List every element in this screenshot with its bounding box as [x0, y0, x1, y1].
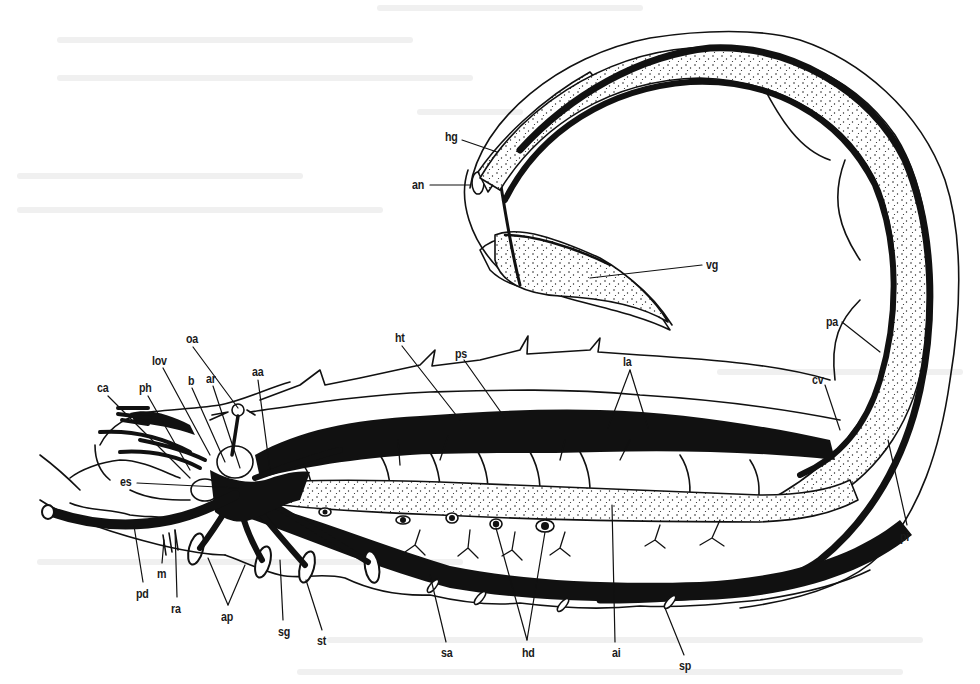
label-ra: ra [171, 602, 181, 615]
heart-vesicle [217, 446, 253, 478]
label-ca: ca [97, 381, 108, 394]
label-oa: oa [186, 332, 198, 345]
label-hg: hg [445, 130, 458, 143]
label-cv: cv [812, 373, 823, 386]
label-hd: hd [522, 646, 535, 659]
label-vg: vg [706, 258, 718, 271]
label-ps: ps [455, 347, 467, 360]
label-ar: ar [206, 372, 216, 385]
label-b: b [188, 374, 194, 387]
anatomy-line-drawing [0, 0, 980, 684]
dorsal-blood-vessel [255, 409, 835, 478]
label-sa: sa [441, 646, 452, 659]
label-ai: ai [612, 646, 620, 659]
label-aa: aa [252, 365, 263, 378]
label-an: an [412, 178, 424, 191]
label-es: es [120, 475, 131, 488]
label-ap: ap [221, 610, 233, 623]
label-la: la [623, 355, 631, 368]
label-pa: pa [826, 315, 838, 328]
label-ph: ph [139, 381, 152, 394]
ocular-organ [232, 404, 244, 416]
label-m: m [157, 567, 166, 580]
label-sp: sp [679, 659, 691, 672]
label-st: st [317, 634, 326, 647]
label-ht: ht [395, 331, 405, 344]
anatomy-diagram: hg an vg pa cv pi ht ps la oa lov b ar a… [0, 0, 980, 684]
label-pd: pd [136, 587, 149, 600]
label-lov: lov [152, 354, 167, 367]
alimentary-canal [240, 480, 858, 522]
label-pi: pi [900, 530, 909, 543]
label-sg: sg [278, 625, 290, 638]
